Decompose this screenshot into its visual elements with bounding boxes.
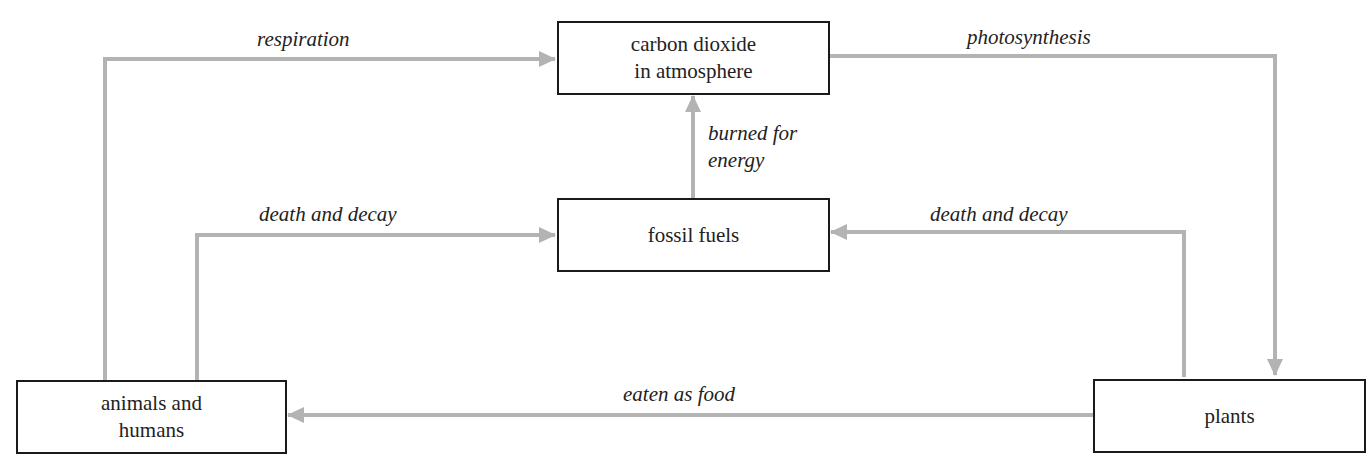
label-burned-for-energy: burned for energy [708, 120, 797, 174]
decay-plants-arrow [831, 232, 1184, 377]
node-carbon-dioxide: carbon dioxide in atmosphere [557, 21, 830, 95]
node-animals-and-humans: animals and humans [16, 380, 287, 454]
label-respiration: respiration [257, 26, 350, 53]
node-fossil-fuels-label: fossil fuels [648, 222, 740, 249]
label-death-and-decay-right: death and decay [930, 201, 1068, 228]
node-animals-label: animals and humans [101, 390, 202, 444]
decay-animals-arrow [197, 235, 555, 380]
label-eaten-as-food: eaten as food [623, 381, 735, 408]
label-death-and-decay-left: death and decay [259, 201, 397, 228]
node-plants-label: plants [1204, 403, 1254, 430]
label-photosynthesis: photosynthesis [967, 24, 1091, 51]
node-fossil-fuels: fossil fuels [557, 198, 830, 272]
node-plants: plants [1093, 379, 1366, 453]
node-carbon-dioxide-label: carbon dioxide in atmosphere [631, 31, 756, 85]
